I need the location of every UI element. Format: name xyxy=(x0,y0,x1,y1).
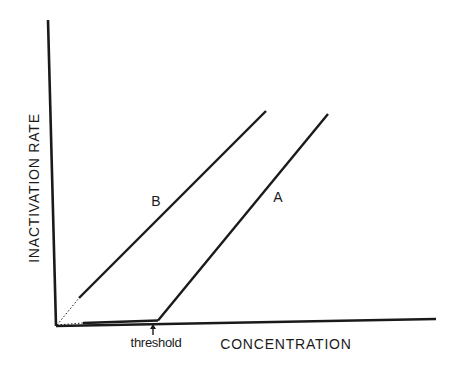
curve-b xyxy=(79,111,266,298)
curve-a xyxy=(158,114,328,321)
y-axis-label: INACTIVATION RATE xyxy=(26,113,42,263)
curve-b-label: B xyxy=(151,193,160,209)
threshold-arrow-icon xyxy=(150,324,156,335)
y-axis xyxy=(48,20,56,326)
inactivation-rate-diagram: threshold CONCENTRATION INACTIVATION RAT… xyxy=(0,0,456,372)
threshold-label: threshold xyxy=(131,335,182,350)
curve-a-label: A xyxy=(273,189,283,205)
curve-a-subthreshold xyxy=(83,321,158,324)
x-axis-label: CONCENTRATION xyxy=(220,336,351,352)
curve-b-extrapolation xyxy=(57,298,79,325)
